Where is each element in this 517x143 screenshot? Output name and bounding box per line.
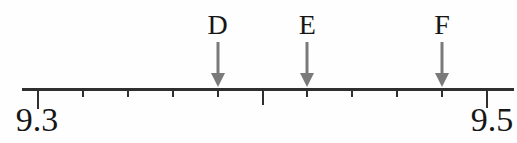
minor-tick-9.48	[441, 89, 443, 97]
major-tick-9.4	[262, 89, 264, 105]
minor-tick-9.38	[217, 89, 219, 97]
axis-min-label: 9.3	[16, 103, 59, 137]
minor-tick-9.32	[82, 89, 84, 97]
axis-max-label: 9.5	[471, 103, 514, 137]
minor-tick-9.34	[127, 89, 129, 97]
number-line-figure: DEF 9.3 9.5	[0, 0, 517, 143]
arrow-head-D	[211, 73, 225, 87]
minor-tick-9.36	[172, 89, 174, 97]
minor-tick-9.42	[306, 89, 308, 97]
point-label-D: D	[207, 11, 227, 39]
point-label-E: E	[299, 11, 316, 39]
point-label-F: F	[434, 11, 450, 39]
arrow-shaft-D	[216, 42, 219, 74]
minor-tick-9.44	[351, 89, 353, 97]
minor-tick-9.46	[396, 89, 398, 97]
arrow-head-E	[300, 73, 314, 87]
arrow-head-F	[435, 73, 449, 87]
arrow-shaft-E	[306, 42, 309, 74]
arrow-shaft-F	[441, 42, 444, 74]
